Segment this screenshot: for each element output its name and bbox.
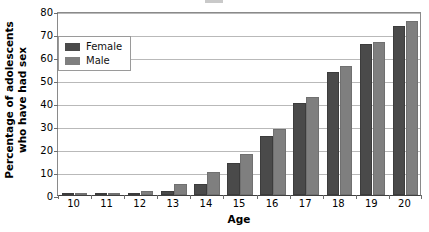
y-axis-title-line-1: Percentage of adolescents [3, 21, 16, 179]
legend-label-male: Male [86, 55, 110, 66]
male-swatch [65, 57, 80, 65]
bar-female-age-20 [393, 26, 406, 195]
x-axis-title: Age [57, 213, 421, 225]
x-axis-tick-label-16: 16 [266, 198, 279, 209]
x-axis-tick-labels: 1011121314151617181920 [57, 198, 421, 212]
x-axis-tick-label-17: 17 [299, 198, 312, 209]
legend-label-female: Female [86, 41, 122, 52]
y-axis-tick-label: 70 [31, 30, 53, 41]
x-axis-tick-label-19: 19 [365, 198, 378, 209]
y-axis-tick-label: 20 [31, 145, 53, 156]
x-axis-tick-label-15: 15 [233, 198, 246, 209]
y-axis-title-line-2: who have had sex [16, 21, 29, 179]
y-axis-tick-label: 0 [31, 191, 53, 202]
x-axis-tick-label-20: 20 [398, 198, 411, 209]
legend-entry-female: Female [65, 41, 122, 52]
y-axis-tick-label: 60 [31, 53, 53, 64]
y-axis-tick-label: 10 [31, 168, 53, 179]
bar-male-age-20 [406, 21, 419, 195]
x-axis-tick-label-12: 12 [133, 198, 146, 209]
x-axis-tick-label-14: 14 [200, 198, 213, 209]
x-axis-tick-label-10: 10 [67, 198, 80, 209]
y-axis-tick-label: 80 [31, 7, 53, 18]
female-swatch [65, 43, 80, 51]
y-axis-tick-label: 50 [31, 76, 53, 87]
y-axis-tick-labels: 01020304050607080 [29, 0, 53, 232]
cropped-title-remnant [205, 0, 223, 3]
x-axis-tick-label-13: 13 [166, 198, 179, 209]
x-axis-tick-label-18: 18 [332, 198, 345, 209]
x-axis-tick-label-11: 11 [100, 198, 113, 209]
y-axis-title: Percentage of adolescents who have had s… [0, 0, 32, 200]
y-axis-tick-label: 30 [31, 122, 53, 133]
x-axis-tick-mark [421, 195, 422, 199]
bar-chart-figure: Percentage of adolescents who have had s… [0, 0, 429, 232]
legend-entry-male: Male [65, 55, 122, 66]
y-axis-tick-label: 40 [31, 99, 53, 110]
chart-legend: FemaleMale [58, 36, 131, 71]
